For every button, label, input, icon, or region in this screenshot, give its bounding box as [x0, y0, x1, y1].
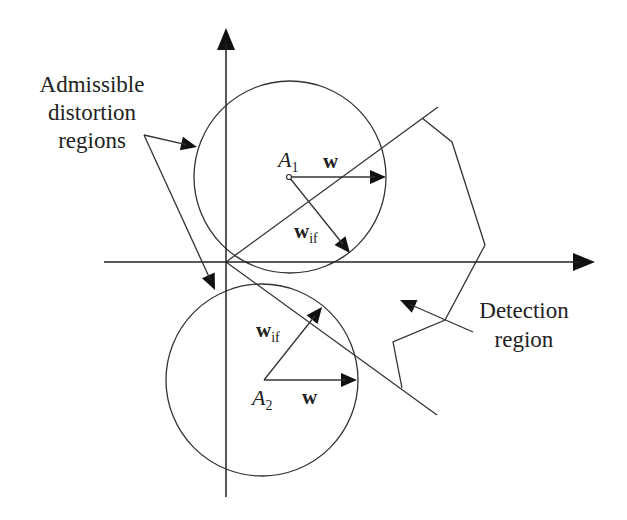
admissible-label-line3: regions — [58, 128, 126, 153]
diagram-canvas: Admissible distortion regions Detection … — [0, 0, 627, 520]
wif-label-bottom: wif — [256, 318, 280, 345]
diagram-svg: Admissible distortion regions Detection … — [0, 0, 627, 520]
admissible-label-line1: Admissible — [40, 72, 145, 97]
wif-label-top: wif — [294, 219, 318, 246]
geometry-layer — [104, 28, 595, 497]
pointer-to-detection — [410, 304, 473, 332]
detection-label-line1: Detection — [479, 298, 569, 323]
pointer-to-circle-a1 — [144, 135, 186, 145]
upper-boundary — [226, 107, 438, 262]
detection-label-line2: region — [495, 327, 554, 352]
wif-vector-a2 — [264, 316, 315, 380]
wif-vector-a1-arrowhead-icon — [335, 236, 350, 253]
w-label-top: w — [323, 149, 339, 173]
detection-region-boundary — [393, 118, 485, 388]
a1-label: A1 — [276, 147, 298, 175]
a2-label: A2 — [250, 385, 272, 413]
pointer-to-circle-a2 — [144, 135, 210, 280]
admissible-label-line2: distortion — [48, 100, 137, 125]
w-label-bottom: w — [302, 385, 318, 409]
a1-center-point — [287, 175, 292, 180]
